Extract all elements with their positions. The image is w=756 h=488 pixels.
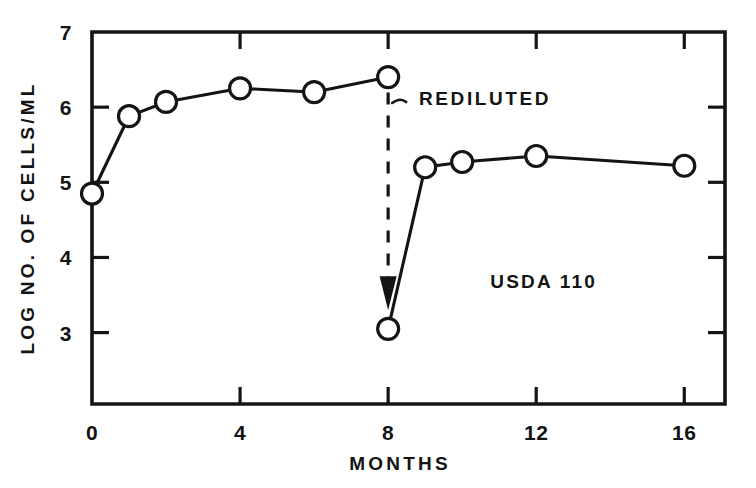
x-tick-label: 16 <box>672 421 696 444</box>
series-segment <box>437 164 450 166</box>
y-tick-label: 5 <box>60 171 72 194</box>
x-axis-title: MONTHS <box>349 453 451 474</box>
x-axis-tick-labels: 0481216 <box>86 421 697 444</box>
data-point-marker <box>378 318 399 339</box>
line-chart: 34567 0481216 LOG NO. OF CELLS/ML MONTHS… <box>0 0 756 488</box>
data-point-marker <box>156 91 177 112</box>
data-point-marker <box>119 106 140 127</box>
redilution-arrow <box>380 93 397 311</box>
x-tick-label: 12 <box>524 421 548 444</box>
y-axis-ticks <box>92 107 109 332</box>
redilution-leader-icon <box>392 100 406 103</box>
series-segment <box>548 157 672 165</box>
y-axis-ticks-right <box>708 107 725 332</box>
x-axis-ticks <box>240 387 684 404</box>
y-tick-label: 7 <box>60 21 72 44</box>
x-axis-ticks-top <box>240 32 684 49</box>
y-axis-tick-labels: 34567 <box>60 21 72 345</box>
chart-figure: 34567 0481216 LOG NO. OF CELLS/ML MONTHS… <box>0 0 756 488</box>
data-point-marker <box>526 146 547 167</box>
y-tick-label: 6 <box>60 96 72 119</box>
y-axis-title: LOG NO. OF CELLS/ML <box>17 82 38 355</box>
data-point-marker <box>304 82 325 103</box>
data-point-marker <box>415 157 436 178</box>
x-tick-label: 8 <box>382 421 394 444</box>
x-tick-label: 0 <box>86 421 98 444</box>
x-tick-label: 4 <box>234 421 246 444</box>
redilution-annotation-label: REDILUTED <box>419 88 551 109</box>
series-segment <box>97 127 124 183</box>
strain-annotation-label: USDA 110 <box>490 271 597 292</box>
plot-frame <box>92 32 725 404</box>
data-point-marker <box>452 152 473 173</box>
series-segment <box>391 179 423 317</box>
axis-box <box>92 32 725 404</box>
series-segment <box>326 79 377 89</box>
series-segment <box>178 91 228 100</box>
data-point-marker <box>378 67 399 88</box>
data-point-marker <box>230 78 251 99</box>
data-point-marker <box>674 155 695 176</box>
data-point-marker <box>82 183 103 204</box>
y-tick-label: 3 <box>60 322 72 345</box>
series-segment <box>140 106 155 112</box>
y-tick-label: 4 <box>60 246 72 269</box>
series-segment <box>252 89 302 92</box>
series-segment <box>474 157 524 161</box>
